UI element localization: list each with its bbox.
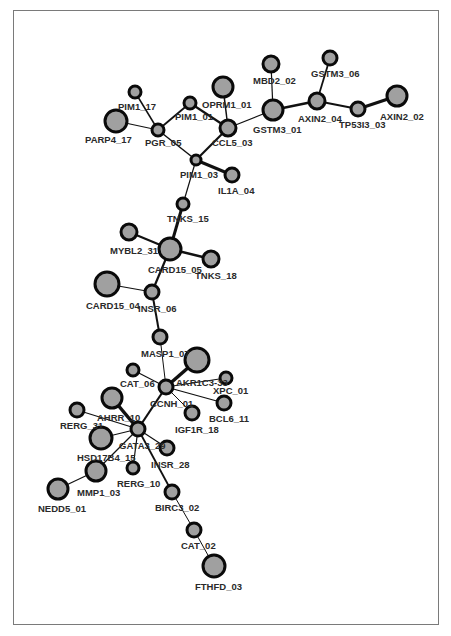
node-ccl5-03[interactable] (220, 120, 236, 136)
node-tp53i3-03[interactable] (351, 102, 365, 116)
node-label: RERG_31 (60, 420, 104, 431)
node-label: FTHFD_03 (195, 581, 242, 592)
node-pim1-17[interactable] (129, 86, 141, 98)
node-label: TNKS_15 (167, 213, 209, 224)
node-card15-04[interactable] (95, 272, 119, 296)
node-label: MASP1_07 (141, 348, 190, 359)
node-label: GATA3_29 (119, 440, 166, 451)
node-label: BCL6_11 (209, 413, 250, 424)
node-gstm3-01[interactable] (263, 100, 283, 120)
node-label: MBD2_02 (253, 75, 296, 86)
node-label: PIM1_03 (180, 169, 218, 180)
node-axin2-04[interactable] (309, 93, 325, 109)
node-tnks-18[interactable] (203, 251, 219, 267)
node-label: HSD17B4_15 (77, 452, 136, 463)
node-label: GSTM3_01 (253, 124, 302, 135)
node-mybl2-31[interactable] (121, 224, 137, 240)
node-label: CCL5_03 (212, 137, 253, 148)
node-oprm1-01[interactable] (213, 77, 233, 97)
node-label: MYBL2_31 (110, 245, 159, 256)
node-label: NEDD5_01 (38, 503, 87, 514)
node-label: AXIN2_04 (298, 113, 343, 124)
node-tnks-15[interactable] (177, 198, 189, 210)
node-label: TP53I3_03 (339, 119, 385, 130)
node-label: MMP1_03 (77, 487, 120, 498)
node-bcl6-11[interactable] (217, 396, 231, 410)
label-layer: PIM1_17PARP4_17PGR_05PIM1_01OPRM1_01CCL5… (38, 68, 424, 592)
node-cat-02[interactable] (187, 523, 201, 537)
node-label: RERG_10 (117, 478, 160, 489)
node-nedd5-01[interactable] (48, 479, 68, 499)
node-birc3-02[interactable] (165, 485, 179, 499)
node-mbd2-02[interactable] (263, 56, 279, 72)
node-label: PGR_05 (145, 137, 182, 148)
network-graph: PIM1_17PARP4_17PGR_05PIM1_01OPRM1_01CCL5… (0, 0, 451, 636)
node-label: CARD15_04 (86, 300, 141, 311)
node-label: CCNH_01 (150, 398, 194, 409)
node-card15-05[interactable] (159, 238, 181, 260)
node-label: BIRC3_02 (155, 502, 199, 513)
node-label: INSR_06 (138, 303, 177, 314)
node-label: IGF1R_18 (175, 424, 219, 435)
node-pim1-03[interactable] (191, 155, 201, 165)
node-label: XPC_01 (213, 385, 249, 396)
node-mmp1-03[interactable] (86, 461, 106, 481)
node-label: GSTM3_06 (311, 68, 360, 79)
node-label: PIM1_17 (118, 101, 156, 112)
node-gata3-29[interactable] (131, 422, 145, 436)
node-label: TNKS_18 (195, 270, 237, 281)
node-parp4-17[interactable] (105, 110, 127, 132)
node-rerg-10[interactable] (127, 462, 139, 474)
node-ahrr-10[interactable] (102, 388, 122, 408)
node-ccnh-01[interactable] (159, 380, 173, 394)
node-cat-06[interactable] (127, 364, 139, 376)
node-pgr-05[interactable] (152, 124, 164, 136)
node-label: IL1A_04 (218, 185, 255, 196)
node-label: CAT_06 (120, 378, 155, 389)
node-label: INSR_28 (151, 459, 190, 470)
node-label: CAT_02 (181, 540, 216, 551)
node-fthfd-03[interactable] (203, 555, 225, 577)
node-label: PIM1_01 (175, 111, 214, 122)
node-label: AHRR_10 (97, 412, 140, 423)
node-il1a-04[interactable] (225, 168, 239, 182)
node-label: AXIN2_02 (380, 111, 424, 122)
node-label: OPRM1_01 (202, 99, 252, 110)
node-label: PARP4_17 (85, 134, 132, 145)
node-gstm3-06[interactable] (323, 51, 337, 65)
node-masp1-07[interactable] (153, 330, 167, 344)
node-rerg-31[interactable] (70, 403, 84, 417)
node-insr-06[interactable] (145, 285, 159, 299)
node-pim1-01[interactable] (184, 97, 196, 109)
node-axin2-02[interactable] (387, 86, 407, 106)
